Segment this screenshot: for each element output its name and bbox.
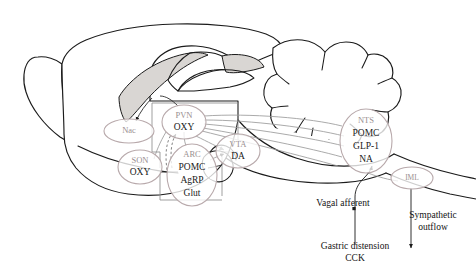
annotation-cck: CCK (345, 253, 365, 263)
node-vta-line-1: DA (231, 151, 245, 161)
node-vta-title: VTA (230, 139, 248, 149)
node-son-line-1: OXY (130, 167, 151, 177)
node-nac[interactable]: Nac (104, 119, 154, 143)
node-pvn-title: PVN (175, 110, 192, 120)
node-pvn[interactable]: PVN OXY (162, 105, 206, 139)
node-nts-line-1: POMC (353, 128, 380, 138)
node-pvn-line-1: OXY (174, 122, 195, 132)
node-nts-title: NTS (358, 115, 374, 125)
brain-circuit-diagram: Nac PVN OXY SON OXY ARC POMC AgRP Glut (0, 0, 476, 274)
node-vta[interactable]: VTA DA (216, 134, 260, 168)
node-nts[interactable]: NTS POMC GLP-1 NA (340, 109, 392, 173)
node-arc-title: ARC (183, 149, 201, 159)
node-arc[interactable]: ARC POMC AgRP Glut (167, 144, 217, 206)
figure-canvas: Nac PVN OXY SON OXY ARC POMC AgRP Glut (0, 0, 476, 274)
annotation-vagal-afferent: Vagal afferent (316, 198, 370, 208)
node-nac-label: Nac (122, 125, 136, 135)
annotation-group: Vagal afferent Gastric distension CCK Sy… (316, 198, 456, 263)
node-son[interactable]: SON OXY (118, 150, 162, 184)
annotation-sympathetic: Sympathetic (409, 210, 457, 220)
node-nts-line-2: GLP-1 (353, 141, 379, 151)
annotation-gastric-distension: Gastric distension (321, 241, 390, 251)
node-iml[interactable]: IML (391, 167, 433, 189)
node-arc-line-3: Glut (184, 188, 201, 198)
node-arc-line-2: AgRP (180, 175, 203, 185)
node-nts-line-3: NA (359, 154, 373, 164)
node-son-title: SON (131, 155, 148, 165)
node-arc-line-1: POMC (179, 162, 206, 172)
thalamus-inner-outline (178, 70, 254, 91)
node-iml-label: IML (405, 173, 419, 182)
annotation-outflow: outflow (418, 222, 448, 232)
